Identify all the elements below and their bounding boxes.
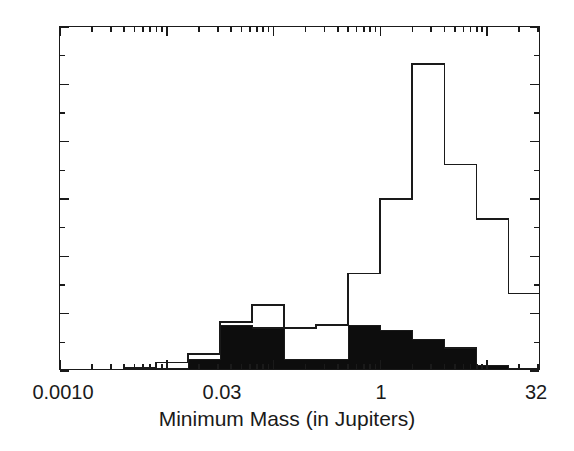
x-tick--1-9-top <box>375 27 377 32</box>
histogram-figure: 120 100 80 60 40 20 0 0.0010 0.03 1 32 M… <box>0 0 574 451</box>
x-tick--2-8 <box>262 364 264 369</box>
x-tick--3-7 <box>149 364 151 369</box>
x-tick--2-4-top <box>230 27 232 32</box>
x-tick-0-8 <box>476 364 478 369</box>
x-tick-0-8-top <box>476 27 478 32</box>
y-tick-right-10 <box>534 342 539 344</box>
x-tick--3-5-top <box>134 27 136 32</box>
y-tick-right-90 <box>534 112 539 114</box>
x-tick-label-1: 1 <box>375 382 386 402</box>
x-tick--1-8 <box>369 364 371 369</box>
x-tick--1-6-top <box>356 27 358 32</box>
x-tick--2-8-top <box>262 27 264 32</box>
x-tick--2-7-top <box>256 27 258 32</box>
x-tick-0-1 <box>380 360 382 369</box>
y-tick-right-70 <box>534 170 539 172</box>
y-tick-right-100 <box>530 84 539 86</box>
x-tick--3-1 <box>59 360 61 369</box>
x-tick-0-2-top <box>412 27 414 32</box>
x-tick-0-9-top <box>481 27 483 32</box>
x-tick-label-32: 32 <box>525 382 547 402</box>
x-tick--2-5 <box>241 364 243 369</box>
x-tick-label-0-0010: 0.0010 <box>32 382 93 402</box>
x-tick--1-4 <box>337 364 339 369</box>
x-tick-0-4 <box>444 364 446 369</box>
x-tick--2-2-top <box>198 27 200 32</box>
y-tick-120 <box>60 26 69 28</box>
y-tick-right-60 <box>530 198 539 200</box>
y-tick-right-30 <box>534 284 539 286</box>
x-tick-0-3-top <box>430 27 432 32</box>
x-tick--2-3 <box>217 364 219 369</box>
x-tick--1-2 <box>305 364 307 369</box>
x-tick-1-2-top <box>518 27 520 32</box>
x-tick-1-2 <box>518 364 520 369</box>
x-tick--1-4-top <box>337 27 339 32</box>
x-tick-label-0-03: 0.03 <box>203 382 242 402</box>
y-tick-right-80 <box>530 141 539 143</box>
y-tick-30 <box>60 284 65 286</box>
x-tick--3-3 <box>110 364 112 369</box>
y-tick-right-50 <box>534 227 539 229</box>
x-tick--3-2-top <box>91 27 93 32</box>
y-tick-20 <box>60 313 69 315</box>
x-tick-0-5 <box>454 364 456 369</box>
plot-area <box>60 27 539 369</box>
y-tick-right-110 <box>534 55 539 57</box>
x-tick-1-1 <box>486 360 488 369</box>
x-tick--3-6-top <box>142 27 144 32</box>
x-tick--3-2 <box>91 364 93 369</box>
x-tick--2-3-top <box>217 27 219 32</box>
plot-frame <box>59 26 540 370</box>
x-tick-1-1-top <box>486 27 488 36</box>
x-tick-0-4-top <box>444 27 446 32</box>
x-tick-0-9 <box>481 364 483 369</box>
x-tick--3-9 <box>161 364 163 369</box>
x-tick--3-3-top <box>110 27 112 32</box>
y-tick-40 <box>60 256 69 258</box>
x-tick--3-6 <box>142 364 144 369</box>
x-tick--1-6 <box>356 364 358 369</box>
x-tick-0-5-top <box>454 27 456 32</box>
y-tick-70 <box>60 170 65 172</box>
x-tick--1-3-top <box>324 27 326 32</box>
x-tick--3-8-top <box>156 27 158 32</box>
y-tick-right-20 <box>530 313 539 315</box>
histogram-series-outline <box>60 64 539 369</box>
x-tick--1-5-top <box>347 27 349 32</box>
x-tick--1-3 <box>324 364 326 369</box>
x-tick--2-6 <box>249 364 251 369</box>
x-tick--3-1-top <box>59 27 61 36</box>
x-tick--1-7 <box>363 364 365 369</box>
x-tick--1-8-top <box>369 27 371 32</box>
x-axis-title: Minimum Mass (in Jupiters) <box>0 408 574 429</box>
x-tick--1-9 <box>375 364 377 369</box>
y-tick-right-0 <box>530 370 539 372</box>
x-tick--2-1 <box>166 360 168 369</box>
x-tick-1-3 <box>537 364 539 369</box>
x-tick--2-1-top <box>166 27 168 36</box>
x-tick--1-1 <box>273 360 275 369</box>
x-tick-0-1-top <box>380 27 382 36</box>
x-tick--3-9-top <box>161 27 163 32</box>
x-tick--2-7 <box>256 364 258 369</box>
x-tick--2-9-top <box>268 27 270 32</box>
x-tick--1-5 <box>347 364 349 369</box>
x-tick--3-4 <box>123 364 125 369</box>
x-tick-0-2 <box>412 364 414 369</box>
x-tick--2-5-top <box>241 27 243 32</box>
x-tick-0-7 <box>470 364 472 369</box>
x-tick--1-7-top <box>363 27 365 32</box>
y-tick-right-40 <box>530 256 539 258</box>
x-tick--2-6-top <box>249 27 251 32</box>
x-tick-1-3-top <box>537 27 539 32</box>
x-tick-0-6-top <box>463 27 465 32</box>
x-tick--3-7-top <box>149 27 151 32</box>
x-tick--2-4 <box>230 364 232 369</box>
x-tick--3-4-top <box>123 27 125 32</box>
y-tick-50 <box>60 227 65 229</box>
x-tick--2-2 <box>198 364 200 369</box>
y-tick-90 <box>60 112 65 114</box>
y-tick-110 <box>60 55 65 57</box>
y-tick-100 <box>60 84 69 86</box>
